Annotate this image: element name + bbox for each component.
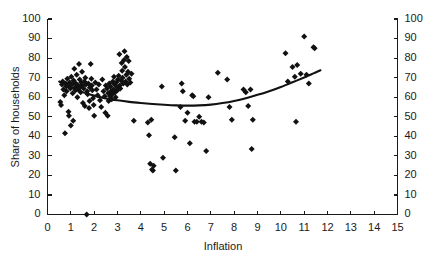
x-tick-label: 3 xyxy=(114,221,120,233)
y-tick-label-right: 30 xyxy=(405,149,417,161)
data-point xyxy=(88,76,94,82)
x-ticks xyxy=(71,211,398,215)
x-tick-label: 15 xyxy=(391,221,403,233)
x-tick-label: 11 xyxy=(298,221,309,233)
data-point xyxy=(159,83,165,89)
data-point xyxy=(180,88,186,94)
y-tick-label-right: 40 xyxy=(405,129,417,141)
x-tick-label: 14 xyxy=(368,221,380,233)
data-point xyxy=(283,50,289,56)
y-tick-label: 0 xyxy=(34,207,40,219)
x-axis-title: Inflation xyxy=(204,240,243,252)
data-point xyxy=(298,71,304,77)
y-tick-label-right: 100 xyxy=(405,12,423,24)
x-tick-label: 0 xyxy=(44,221,50,233)
data-point xyxy=(301,34,307,40)
data-point xyxy=(179,81,185,87)
left-y-ticks xyxy=(48,19,52,215)
data-point xyxy=(160,155,166,161)
data-point xyxy=(203,148,209,154)
x-tick-label: 1 xyxy=(68,221,74,233)
x-tick-label: 2 xyxy=(91,221,97,233)
right-y-tick-labels: 0102030405060708090100 xyxy=(405,12,423,220)
y-tick-label: 40 xyxy=(28,129,40,141)
data-point xyxy=(215,70,221,76)
data-point xyxy=(66,113,72,119)
x-tick-label: 10 xyxy=(275,221,287,233)
left-y-tick-labels: 0102030405060708090100 xyxy=(22,12,40,220)
data-point xyxy=(196,114,202,120)
y-tick-label-right: 70 xyxy=(405,71,417,83)
data-point xyxy=(131,118,137,124)
data-point xyxy=(91,102,97,108)
data-point xyxy=(292,74,298,80)
y-tick-label: 90 xyxy=(28,31,40,43)
data-point xyxy=(172,134,178,140)
data-point xyxy=(227,104,233,110)
x-tick-label: 5 xyxy=(161,221,167,233)
data-point xyxy=(306,81,312,87)
x-tick-labels: 0123456789101112131415 xyxy=(44,221,403,233)
data-point xyxy=(74,94,80,100)
y-tick-label: 100 xyxy=(22,12,40,24)
data-point xyxy=(99,77,105,83)
y-tick-label: 50 xyxy=(28,110,40,122)
data-point xyxy=(94,86,100,92)
data-point xyxy=(206,94,212,100)
y-tick-label-right: 90 xyxy=(405,31,417,43)
y-tick-label-right: 80 xyxy=(405,51,417,63)
y-tick-label-right: 10 xyxy=(405,188,417,200)
data-point xyxy=(62,130,68,136)
x-tick-label: 7 xyxy=(208,221,214,233)
data-point xyxy=(248,86,254,92)
y-tick-label-right: 0 xyxy=(405,207,411,219)
data-point xyxy=(173,168,179,174)
chart-canvas: Share of households Inflation 0102030405… xyxy=(0,0,441,258)
data-point xyxy=(187,140,193,146)
data-point xyxy=(70,118,76,124)
right-y-ticks xyxy=(394,19,398,215)
y-tick-label: 20 xyxy=(28,168,40,180)
y-axis-title: Share of households xyxy=(9,66,21,167)
data-point xyxy=(91,113,97,119)
x-tick-label: 13 xyxy=(345,221,357,233)
scatter-chart-figure: Share of households Inflation 0102030405… xyxy=(0,0,441,258)
data-point xyxy=(182,118,188,124)
x-tick-label: 9 xyxy=(254,221,260,233)
data-point xyxy=(98,104,104,110)
y-tick-label: 60 xyxy=(28,90,40,102)
data-point xyxy=(76,61,82,67)
data-point xyxy=(293,119,299,125)
y-tick-label-right: 20 xyxy=(405,168,417,180)
y-tick-label: 30 xyxy=(28,149,40,161)
data-point xyxy=(68,123,74,129)
x-tick-label: 4 xyxy=(138,221,144,233)
y-tick-label: 80 xyxy=(28,51,40,63)
data-point xyxy=(224,77,230,83)
data-point xyxy=(79,69,85,75)
data-point xyxy=(249,146,255,152)
y-tick-label: 10 xyxy=(28,188,40,200)
x-tick-label: 12 xyxy=(321,221,333,233)
data-point xyxy=(122,48,128,54)
x-tick-label: 6 xyxy=(184,221,190,233)
data-point xyxy=(116,51,122,57)
y-tick-label-right: 50 xyxy=(405,110,417,122)
data-point xyxy=(71,66,77,72)
y-tick-label-right: 60 xyxy=(405,90,417,102)
data-point xyxy=(185,110,191,116)
data-point xyxy=(229,117,235,123)
data-point xyxy=(146,132,152,138)
y-tick-label: 70 xyxy=(28,71,40,83)
data-point xyxy=(245,103,251,109)
x-tick-label: 8 xyxy=(231,221,237,233)
data-point xyxy=(74,72,80,78)
data-points-layer xyxy=(57,34,317,218)
data-point xyxy=(88,61,94,67)
data-point xyxy=(250,117,256,123)
data-point xyxy=(84,212,90,218)
